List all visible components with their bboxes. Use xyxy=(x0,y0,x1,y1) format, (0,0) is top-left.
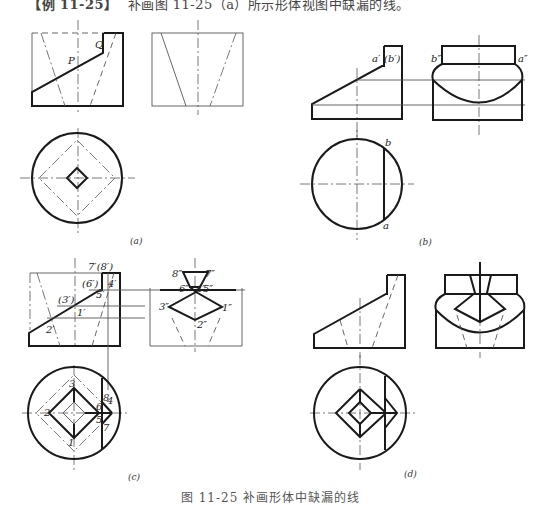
figure-b-side-view: b″ a″ xyxy=(431,35,528,135)
svg-text:3: 3 xyxy=(69,378,75,389)
svg-text:b: b xyxy=(385,137,391,148)
svg-text:2: 2 xyxy=(43,407,50,418)
figure-a-front-view: Q P xyxy=(32,20,123,112)
svg-text:a″: a″ xyxy=(518,53,528,64)
figure-c: 7′(8′) (6′) 4′ 5′ (3′) 1′ 2′ 8″ 7″ 6″ 4″… xyxy=(22,258,245,482)
figure-b-label: (b) xyxy=(419,237,432,247)
figure-c-top-view: 3 2 1 8 4 6 5 7 xyxy=(22,365,130,470)
figure-d-top-view xyxy=(310,355,415,470)
figure-d: (d) xyxy=(310,262,524,479)
figure-a: Q P (a) xyxy=(20,20,243,246)
svg-text:5′: 5′ xyxy=(96,289,105,300)
svg-text:1′: 1′ xyxy=(77,307,86,318)
svg-text:Q: Q xyxy=(95,39,103,50)
figure-b-front-view: a′ (b′) xyxy=(312,46,525,140)
svg-text:7′(8′): 7′(8′) xyxy=(88,261,113,272)
svg-text:b″: b″ xyxy=(431,53,441,64)
figure-a-top-view xyxy=(20,128,135,235)
svg-text:7″: 7″ xyxy=(205,268,215,279)
figure-c-label: (c) xyxy=(128,472,141,482)
svg-text:4: 4 xyxy=(106,395,113,406)
svg-text:a′: a′ xyxy=(372,53,381,64)
svg-text:5″: 5″ xyxy=(203,283,213,294)
figure-b: a′ (b′) b″ a″ b a (b) xyxy=(300,35,528,247)
svg-text:a: a xyxy=(383,220,389,231)
svg-text:7: 7 xyxy=(103,422,110,433)
svg-text:(3′): (3′) xyxy=(58,294,75,305)
svg-text:4′: 4′ xyxy=(107,278,117,289)
svg-text:1″: 1″ xyxy=(222,302,232,313)
figure-c-side-view: 8″ 7″ 6″ 4″ 5″ 3″ 1″ 2″ xyxy=(150,258,242,352)
svg-text:1: 1 xyxy=(68,437,74,448)
svg-text:6: 6 xyxy=(96,401,103,412)
svg-text:P: P xyxy=(67,55,75,66)
figure-d-label: (d) xyxy=(404,469,417,479)
svg-text:2′: 2′ xyxy=(45,324,55,335)
figure-a-label: (a) xyxy=(130,236,143,246)
figure-caption: 图 11-25 补画形体中缺漏的线 xyxy=(0,488,541,505)
figure-d-side-view xyxy=(435,262,524,358)
svg-text:2″: 2″ xyxy=(196,319,207,330)
figure-b-top-view: b a xyxy=(300,130,414,240)
figure-d-front-view xyxy=(314,275,405,358)
figure-a-side-view xyxy=(152,20,243,115)
svg-text:5: 5 xyxy=(96,414,102,425)
svg-text:(6′): (6′) xyxy=(82,278,99,289)
svg-text:(b′): (b′) xyxy=(384,53,401,64)
svg-text:3″: 3″ xyxy=(159,301,169,312)
svg-text:6″: 6″ xyxy=(179,283,189,294)
svg-text:8″: 8″ xyxy=(172,268,182,279)
